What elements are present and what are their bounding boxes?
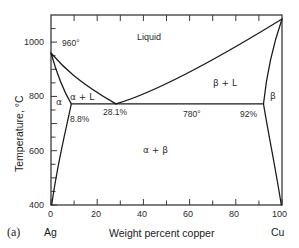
y-tick-label-600: 600	[29, 147, 44, 156]
annotation-eutectic-temperature: 780°	[183, 110, 201, 119]
region-label-liquid: Liquid	[137, 33, 161, 42]
x-tick-label-40: 40	[137, 210, 147, 219]
annotation-alpha-max-solubility: 8.8%	[70, 115, 89, 124]
x-tick-label-60: 60	[183, 210, 193, 219]
x-tick-label-20: 20	[91, 210, 101, 219]
annotation-eutectic-composition: 28.1%	[103, 108, 127, 117]
y-tick-label-800: 800	[29, 92, 44, 101]
region-label-alpha: α	[56, 98, 62, 107]
x-tick-label-80: 80	[229, 210, 239, 219]
region-label-beta: β	[270, 92, 276, 101]
annotation-beta-max-solubility: 92%	[240, 110, 257, 119]
region-label-beta-plus-liquid: β + L	[213, 79, 237, 88]
y-axis-title: Temperature, °C	[14, 95, 25, 172]
phase-diagram-figure: 1000 800 600 400 0 20 40 60 80 100 Tempe…	[0, 0, 299, 248]
region-label-alpha-plus-liquid: α + L	[70, 93, 94, 102]
right-endpoint-label: Cu	[271, 227, 284, 238]
region-label-alpha-plus-beta: α + β	[143, 146, 168, 155]
y-tick-label-1000: 1000	[24, 38, 44, 47]
x-axis-title: Weight percent copper	[109, 228, 214, 239]
annotation-ag-melting: 960°	[62, 39, 80, 48]
panel-caption: (a)	[7, 226, 20, 238]
left-endpoint-label: Ag	[44, 227, 57, 238]
x-tick-label-0: 0	[48, 210, 53, 219]
x-tick-label-100: 100	[272, 210, 287, 219]
y-tick-label-400: 400	[29, 201, 44, 210]
